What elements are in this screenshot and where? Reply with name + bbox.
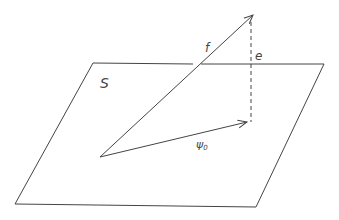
- plane-edge-left: [15, 63, 93, 204]
- plane-edge-bottom: [15, 204, 256, 207]
- plane-edge-right: [256, 64, 324, 207]
- label-f: f: [205, 41, 211, 55]
- plane-s: [15, 63, 324, 207]
- vector-f: [100, 15, 253, 157]
- label-s: S: [100, 75, 109, 91]
- plane-edge-top-left: [93, 63, 193, 64]
- vector-psi0: [100, 122, 247, 157]
- projection-diagram: S f e ψ0: [0, 0, 339, 220]
- label-psi0-subscript: 0: [203, 144, 208, 152]
- label-e: e: [255, 49, 262, 63]
- label-psi0: ψ0: [196, 138, 208, 152]
